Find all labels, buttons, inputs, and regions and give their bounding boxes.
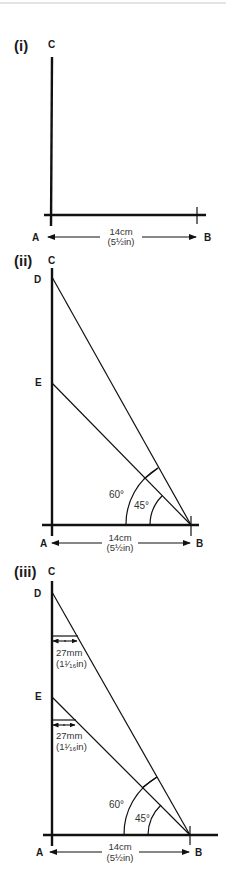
step-label: (ii) [14,252,32,269]
measure-imperial: (5½in) [107,852,134,863]
construction-diagrams: (i) C A B 14cm (5½in) (ii) C D E 60° 45°… [0,0,232,891]
measure-imperial: (5½in) [107,542,134,553]
offset-1-metric: 27mm [56,647,82,658]
arc-60 [126,468,158,525]
point-e-label: E [35,377,42,388]
point-b-label: B [196,538,203,549]
point-a-label: A [36,847,43,858]
offset-2-metric: 27mm [56,730,82,741]
arc-60-extension [144,468,158,479]
step-label: (iii) [14,563,37,580]
point-c-label: C [48,255,55,266]
line-bd [52,277,191,525]
point-b-label: B [195,847,202,858]
measure-metric: 14cm [108,841,131,852]
point-d-label: D [34,274,41,285]
angle-60-label: 60° [109,489,124,500]
point-d-label: D [34,588,41,599]
line-ac [51,57,52,226]
point-b-label: B [204,232,211,243]
point-c-label: C [48,566,55,577]
point-a-label: A [32,232,39,243]
diagram-i: (i) C A B 14cm (5½in) [14,37,211,247]
arc-45 [150,496,162,525]
angle-60-label: 60° [109,799,124,810]
arc-60-extension [143,777,157,787]
angle-45-label: 45° [135,813,150,824]
point-e-label: E [35,691,42,702]
point-a-label: A [40,538,47,549]
step-label: (i) [14,37,28,54]
diagram-iii: (iii) C D E 27mm (1¹⁄₁₆in) 27mm (1¹⁄₁₆in… [14,563,218,863]
diagram-ii: (ii) C D E 60° 45° A B 14cm (5½in) [14,252,203,553]
offset-1-imperial: (1¹⁄₁₆in) [56,658,87,669]
offset-2-imperial: (1¹⁄₁₆in) [56,741,87,752]
measure-imperial: (5½in) [108,236,135,247]
line-be [52,697,190,835]
point-c-label: C [48,39,55,50]
line-be [52,383,191,525]
angle-45-label: 45° [134,500,149,511]
